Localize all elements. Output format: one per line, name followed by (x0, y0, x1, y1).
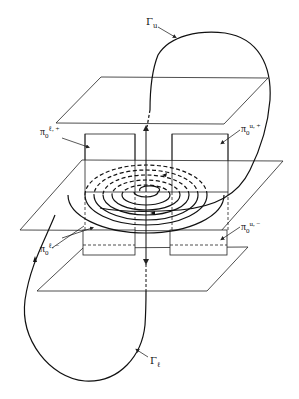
box-lower-left (83, 230, 135, 255)
gamma-l-base: Γ (150, 355, 157, 366)
diagram-svg (0, 0, 299, 399)
pi-l-plus-sub: 0 (45, 132, 49, 140)
pi-u-minus-sup: u, − (250, 220, 261, 228)
gamma-l-sub: ℓ (157, 361, 160, 369)
pi-u-plus-sub: 0 (246, 129, 250, 137)
label-gamma-l: Γℓ (150, 356, 160, 366)
pi-l-minus-sub: 0 (45, 249, 49, 257)
top-plane (56, 77, 268, 124)
diagram-figure: Γu π0ℓ, + π0u, + π0u, − π0ℓ, − Γℓ (0, 0, 299, 399)
label-gamma-u: Γu (146, 17, 157, 27)
box-lower-right (170, 230, 227, 255)
pi-l-plus-sup: ℓ, + (49, 125, 60, 133)
pi-u-minus-sub: 0 (246, 227, 250, 235)
gamma-u-base: Γ (146, 16, 153, 27)
pi-u-plus-sup: u, + (250, 122, 261, 130)
gamma-u-dashed (147, 110, 150, 127)
pi-l-minus-sup: ℓ, − (49, 242, 60, 250)
label-pi-u-plus: π0u, + (241, 124, 261, 134)
label-pi-u-minus: π0u, − (241, 222, 261, 232)
label-pi-l-minus: π0ℓ, − (40, 244, 59, 254)
gamma-u-sub: u (153, 22, 158, 30)
label-pi-l-plus: π0ℓ, + (40, 127, 59, 137)
